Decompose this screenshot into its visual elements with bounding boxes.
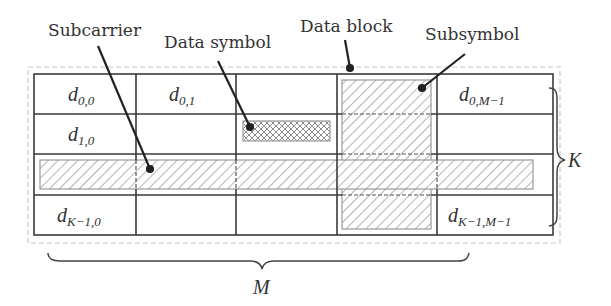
k-label: K bbox=[568, 150, 581, 170]
cell-d-0-0: d0,0 bbox=[68, 84, 94, 107]
m-label: M bbox=[253, 277, 270, 297]
cell-d-K-1-M-1: dK−1,M−1 bbox=[448, 205, 511, 228]
cell-d-K-1-0: dK−1,0 bbox=[57, 205, 101, 228]
data-block-label: Data block bbox=[300, 18, 393, 35]
cell-d-0-1: d0,1 bbox=[169, 84, 195, 107]
subsymbol-label: Subsymbol bbox=[425, 26, 519, 43]
m-brace bbox=[48, 253, 469, 269]
data-symbol-label: Data symbol bbox=[164, 34, 271, 51]
subcarrier-region bbox=[40, 160, 533, 189]
data-block-leader bbox=[345, 40, 350, 68]
cell-d-0-M-1: d0,M−1 bbox=[459, 84, 505, 107]
cell-d-1-0: d1,0 bbox=[68, 124, 94, 147]
resource-grid-diagram bbox=[0, 0, 611, 306]
data-symbol-region bbox=[243, 121, 330, 141]
subcarrier-label: Subcarrier bbox=[48, 22, 141, 39]
